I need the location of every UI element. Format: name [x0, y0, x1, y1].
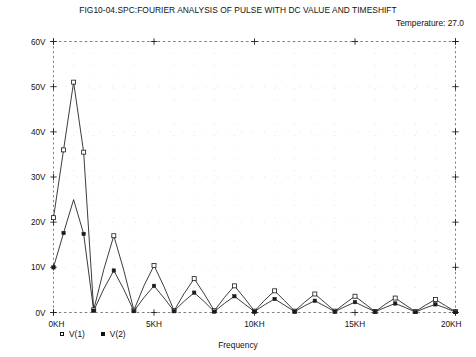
- data-point-marker: [92, 309, 95, 312]
- data-point-marker: [232, 284, 236, 288]
- y-tick-label: 60V: [31, 38, 46, 47]
- chart-plot-area: 0V10V20V30V40V50V60V0KH5KH10KH15KH20KH: [0, 0, 476, 357]
- data-point-marker: [152, 264, 156, 268]
- chart-legend: V(1)V(2): [60, 329, 126, 339]
- legend-item-v2: V(2): [101, 329, 126, 339]
- y-tick-label: 30V: [31, 173, 46, 182]
- data-point-marker: [112, 234, 116, 238]
- data-point-marker: [313, 299, 316, 302]
- data-point-marker: [373, 310, 376, 313]
- y-tick-label: 20V: [31, 218, 46, 227]
- x-tick-label: 5KH: [146, 320, 162, 329]
- data-point-marker: [293, 310, 296, 313]
- data-point-marker: [132, 309, 135, 312]
- y-tick-label: 50V: [31, 83, 46, 92]
- data-point-marker: [152, 284, 155, 287]
- data-point-marker: [52, 266, 55, 269]
- x-tick-label: 15KH: [345, 320, 366, 329]
- data-point-marker: [82, 232, 85, 235]
- data-point-marker: [433, 297, 437, 301]
- open-square-marker-icon: [60, 332, 64, 336]
- x-tick-label: 10KH: [244, 320, 265, 329]
- data-point-marker: [112, 269, 115, 272]
- data-point-marker: [82, 150, 86, 154]
- x-axis-title: Frequency: [0, 340, 476, 350]
- data-point-marker: [434, 303, 437, 306]
- y-tick-label: 0V: [35, 309, 46, 318]
- data-point-marker: [313, 292, 317, 296]
- data-point-marker: [394, 302, 397, 305]
- spice-plot-page: FIG10-04.SPC:FOURIER ANALYSIS OF PULSE W…: [0, 0, 476, 357]
- legend-label: V(1): [69, 329, 85, 339]
- x-tick-label: 0KH: [49, 320, 65, 329]
- data-point-marker: [72, 80, 76, 84]
- x-tick-label: 20KH: [441, 320, 462, 329]
- data-point-marker: [273, 297, 276, 300]
- y-tick-label: 40V: [31, 128, 46, 137]
- filled-square-marker-icon: [101, 332, 105, 336]
- data-point-marker: [192, 277, 196, 281]
- series-line-v1: [54, 82, 456, 311]
- data-point-marker: [454, 310, 457, 313]
- series-line-v2: [54, 200, 456, 312]
- fourier-analysis-chart: 0V10V20V30V40V50V60V0KH5KH10KH15KH20KH: [0, 0, 476, 357]
- data-point-marker: [273, 289, 277, 293]
- data-point-marker: [253, 310, 256, 313]
- axis-tick-labels: 0V10V20V30V40V50V60V0KH5KH10KH15KH20KH: [31, 38, 462, 329]
- data-point-marker: [233, 295, 236, 298]
- legend-item-v1: V(1): [60, 329, 85, 339]
- data-point-marker: [193, 291, 196, 294]
- legend-label: V(2): [110, 329, 126, 339]
- data-point-marker: [213, 310, 216, 313]
- data-point-marker: [353, 300, 356, 303]
- data-series-layer: [52, 80, 458, 314]
- data-point-marker: [52, 216, 56, 220]
- data-point-marker: [414, 310, 417, 313]
- data-point-marker: [353, 294, 357, 298]
- data-point-marker: [333, 310, 336, 313]
- data-point-marker: [62, 231, 65, 234]
- data-point-marker: [393, 296, 397, 300]
- data-point-marker: [62, 148, 66, 152]
- y-tick-label: 10V: [31, 263, 46, 272]
- data-point-marker: [172, 309, 175, 312]
